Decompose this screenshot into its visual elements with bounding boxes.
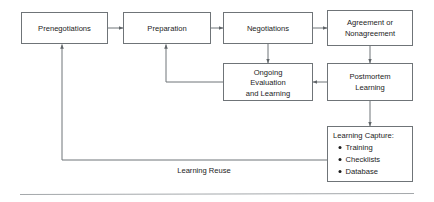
edge-label-learning-reuse: Learning Reuse	[177, 166, 231, 175]
node-postmortem-learning-label-line2: Learning	[355, 83, 385, 92]
node-ongoing-evaluation-label-line1: Ongoing	[254, 68, 283, 77]
node-preparation-label: Preparation	[147, 24, 186, 33]
node-learning-capture-bullet-3: Database	[346, 167, 379, 176]
node-agreement-or-nonagreement-label-line2: Nonagreement	[345, 29, 396, 38]
footer-divider	[20, 194, 414, 195]
node-learning-capture[interactable]: Learning Capture: Training Checklists Da…	[328, 127, 413, 182]
node-learning-capture-bullet-2: Checklists	[346, 155, 381, 164]
edge-learning-reuse-to-prenegotiations	[62, 45, 328, 161]
node-learning-capture-heading: Learning Capture:	[333, 131, 394, 140]
node-agreement-or-nonagreement-label-line1: Agreement or	[347, 18, 393, 27]
node-ongoing-evaluation-label-line3: and Learning	[246, 89, 290, 98]
bullet-icon	[339, 146, 342, 149]
node-prenegotiations-label: Prenegotiations	[38, 24, 91, 33]
node-postmortem-learning-box	[328, 64, 413, 101]
node-agreement-or-nonagreement[interactable]: Agreement or Nonagreement	[328, 11, 413, 46]
node-learning-capture-bullet-1: Training	[346, 143, 373, 152]
edge-ongoing-evaluation-to-preparation	[166, 45, 224, 83]
node-negotiations[interactable]: Negotiations	[224, 13, 313, 44]
node-ongoing-evaluation-and-learning[interactable]: Ongoing Evaluation and Learning	[224, 64, 313, 101]
node-prenegotiations[interactable]: Prenegotiations	[22, 13, 108, 44]
flowchart-canvas: Prenegotiations Preparation Negotiations…	[0, 0, 434, 202]
bullet-icon	[339, 158, 342, 161]
bullet-icon	[339, 170, 342, 173]
node-negotiations-label: Negotiations	[247, 24, 289, 33]
node-postmortem-learning[interactable]: Postmortem Learning	[328, 64, 413, 101]
node-postmortem-learning-label-line1: Postmortem	[350, 72, 391, 81]
node-preparation[interactable]: Preparation	[124, 13, 211, 44]
flowchart-diagram: Prenegotiations Preparation Negotiations…	[0, 0, 434, 202]
node-ongoing-evaluation-label-line2: Evaluation	[250, 78, 285, 87]
